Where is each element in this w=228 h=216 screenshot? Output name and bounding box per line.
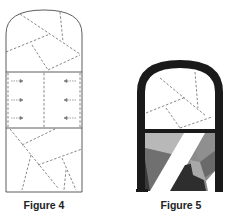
figure-5-caption: Figure 5 xyxy=(141,199,221,211)
figure-5-stained-panes xyxy=(145,133,216,191)
arrow-right-icon xyxy=(20,99,23,102)
figure-5-diagram xyxy=(136,64,219,192)
arrow-right-icon xyxy=(20,80,23,83)
figure-5-transom-bar xyxy=(141,129,219,133)
arrow-left-icon xyxy=(64,117,67,120)
figures-canvas xyxy=(0,0,228,216)
arrow-right-icon xyxy=(20,117,23,120)
arrow-left-icon xyxy=(64,80,67,83)
figure-5-sill xyxy=(136,189,148,192)
arrow-left-icon xyxy=(64,99,67,102)
figure-4-arrows xyxy=(11,80,76,120)
figure-5-dashed-cut-lines xyxy=(146,72,212,128)
figure-4-caption: Figure 4 xyxy=(4,199,84,211)
figure-4-dashed-cut-lines xyxy=(6,12,82,190)
